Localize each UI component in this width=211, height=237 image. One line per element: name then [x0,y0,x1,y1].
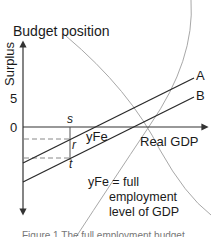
yfe-legend: yFe = full employment level of GDP [88,175,179,220]
figure-caption: Figure 1 The full employment budget [22,231,185,237]
x-axis-label: Real GDP [140,135,199,148]
legend-line-1: yFe = full [88,175,139,189]
budget-line-a [23,78,194,163]
legend-line-3: level of GDP [88,205,179,220]
point-label-r: r [72,139,76,151]
point-label-s: s [67,113,73,125]
y-tick-0: 0 [10,121,17,134]
diagram-title: Budget position [13,24,110,38]
line-label-b: B [196,89,205,102]
budget-position-diagram: Budget position Surplus 5 0 s r t yFe Re… [0,0,211,237]
y-axis-label: Surplus [3,42,16,86]
point-label-t: t [69,158,72,170]
legend-line-2: employment [88,190,179,205]
line-label-a: A [196,69,205,82]
y-tick-5: 5 [10,92,17,105]
point-label-yfe: yFe [86,130,108,143]
